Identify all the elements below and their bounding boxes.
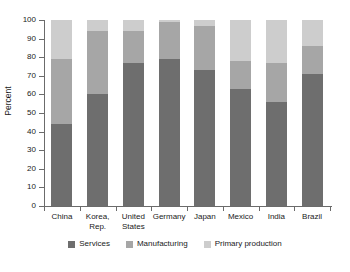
x-tick-label: United States	[116, 212, 152, 231]
x-tick-label: Korea, Rep.	[80, 212, 116, 231]
x-tick-mark	[80, 207, 81, 211]
y-tick-label: 60	[0, 90, 36, 98]
y-tick-label: 80	[0, 53, 36, 61]
legend-item: Primary production	[204, 240, 282, 248]
x-axis-line	[44, 206, 332, 207]
bar-segment	[302, 74, 323, 206]
bar-stack	[159, 20, 180, 206]
bar-stack	[51, 20, 72, 206]
x-tick-mark	[187, 207, 188, 211]
legend-swatch-icon	[68, 241, 75, 248]
bar-stack	[123, 20, 144, 206]
x-tick-label: Germany	[151, 212, 187, 222]
bar-segment	[87, 31, 108, 94]
bar-segment	[123, 31, 144, 63]
bar-segment	[194, 70, 215, 206]
x-tick-mark	[151, 207, 152, 211]
bar-segment	[230, 89, 251, 206]
legend-item: Services	[68, 240, 110, 248]
bar-segment	[302, 20, 323, 46]
legend-item: Manufacturing	[126, 240, 188, 248]
y-tick-label: 70	[0, 72, 36, 80]
x-tick-label: Mexico	[223, 212, 259, 222]
bar-segment	[302, 46, 323, 74]
y-tick-label: 40	[0, 128, 36, 136]
bar-stack	[266, 20, 287, 206]
bar-segment	[194, 20, 215, 26]
bar-segment	[51, 20, 72, 59]
bar-stack	[87, 20, 108, 206]
bar-segment	[266, 102, 287, 206]
bar-stack	[230, 20, 251, 206]
legend-swatch-icon	[204, 241, 211, 248]
legend-swatch-icon	[126, 241, 133, 248]
plot-area	[44, 20, 330, 206]
legend-label: Services	[79, 240, 110, 248]
stacked-bar-chart: Percent 0102030405060708090100 ChinaKore…	[0, 0, 350, 272]
bar-segment	[51, 124, 72, 206]
legend-label: Primary production	[215, 240, 282, 248]
y-tick-label: 100	[0, 16, 36, 24]
bar-segment	[123, 20, 144, 31]
bar-segment	[266, 63, 287, 102]
bar-segment	[87, 20, 108, 31]
legend-label: Manufacturing	[137, 240, 188, 248]
y-tick-label: 50	[0, 109, 36, 117]
bar-segment	[159, 59, 180, 206]
x-tick-label: India	[259, 212, 295, 222]
chart-legend: ServicesManufacturingPrimary production	[0, 240, 350, 248]
bar-stack	[302, 20, 323, 206]
y-axis-title: Percent	[3, 71, 13, 131]
x-tick-label: China	[44, 212, 80, 222]
bar-segment	[266, 20, 287, 63]
x-tick-mark	[294, 207, 295, 211]
x-tick-mark	[223, 207, 224, 211]
x-tick-label: Brazil	[294, 212, 330, 222]
bar-stack	[194, 20, 215, 206]
bar-segment	[51, 59, 72, 124]
bar-segment	[159, 22, 180, 59]
x-tick-label: Japan	[187, 212, 223, 222]
x-tick-mark	[116, 207, 117, 211]
y-tick-label: 10	[0, 183, 36, 191]
bar-segment	[194, 26, 215, 71]
bar-segment	[123, 63, 144, 206]
bar-segment	[87, 94, 108, 206]
y-tick-label: 90	[0, 35, 36, 43]
y-tick-label: 20	[0, 165, 36, 173]
x-tick-mark	[259, 207, 260, 211]
x-tick-mark	[44, 207, 45, 211]
bar-segment	[159, 20, 180, 22]
y-tick-label: 0	[0, 202, 36, 210]
y-tick-label: 30	[0, 146, 36, 154]
bar-segment	[230, 61, 251, 89]
bar-segment	[230, 20, 251, 61]
x-tick-mark	[330, 207, 331, 211]
